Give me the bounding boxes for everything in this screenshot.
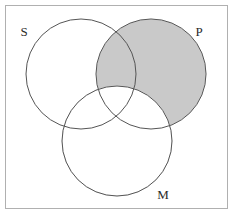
- circle-label-m: M: [157, 187, 169, 202]
- venn-diagram-canvas: S P M: [0, 0, 233, 214]
- circle-label-p: P: [195, 24, 202, 39]
- venn-diagram-figure: S P M: [0, 0, 233, 214]
- circle-label-s: S: [20, 24, 27, 39]
